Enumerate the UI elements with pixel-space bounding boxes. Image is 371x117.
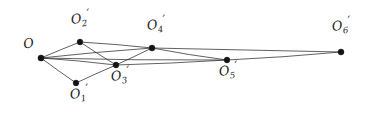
label-subscript-O2: 2: [81, 17, 88, 28]
edge-O2-O4: [80, 42, 152, 48]
label-subscript-O1: 1: [80, 92, 87, 103]
node-label-O2: O2′: [70, 10, 90, 25]
geometric-diagram: OO1′O2′O3′O4′O5′O6′: [0, 0, 371, 117]
node-O[interactable]: [38, 55, 44, 61]
node-label-O3: O3′: [110, 67, 130, 82]
label-subscript-O4: 4: [157, 23, 164, 34]
label-subscript-O5: 5: [229, 69, 236, 80]
edge-O5-O6: [227, 52, 341, 60]
label-subscript-O3: 3: [121, 74, 128, 85]
edge-O4-O5: [152, 48, 227, 60]
edge-O-O1: [41, 58, 76, 83]
node-label-O4: O4′: [146, 16, 166, 31]
node-label-O5: O5′: [218, 62, 238, 77]
node-label-O6: O6′: [331, 17, 351, 32]
diagram-canvas: [0, 0, 371, 117]
node-O4[interactable]: [149, 45, 155, 51]
label-subscript-O6: 6: [342, 24, 349, 35]
label-base-O: O: [22, 35, 36, 52]
node-label-O: O: [22, 36, 35, 51]
edge-layer: [41, 42, 341, 83]
edge-O3-O5: [116, 60, 227, 65]
node-label-O1: O1′: [69, 85, 89, 100]
edge-O4-O6: [152, 48, 341, 52]
node-O2[interactable]: [77, 39, 83, 45]
node-O6[interactable]: [338, 49, 344, 55]
